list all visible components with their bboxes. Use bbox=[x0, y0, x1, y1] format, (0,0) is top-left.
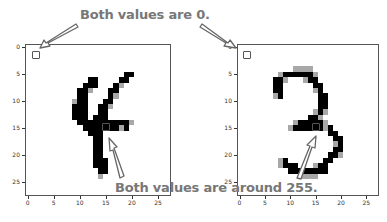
marker-pixel-15-15 bbox=[312, 123, 320, 131]
plot-digit-three bbox=[237, 44, 379, 196]
x-tick-label: 15 bbox=[99, 200, 113, 206]
x-tick-label: 20 bbox=[125, 200, 139, 206]
x-tick-label: 10 bbox=[283, 200, 297, 206]
y-tick-mark bbox=[234, 101, 237, 102]
y-tick-mark bbox=[22, 155, 25, 156]
x-tick-mark bbox=[316, 196, 317, 199]
y-tick-label: 5 bbox=[220, 71, 232, 77]
y-tick-label: 15 bbox=[220, 125, 232, 131]
y-tick-mark bbox=[234, 128, 237, 129]
y-tick-label: 10 bbox=[220, 98, 232, 104]
y-tick-mark bbox=[22, 182, 25, 183]
y-tick-label: 10 bbox=[8, 98, 20, 104]
y-tick-mark bbox=[22, 128, 25, 129]
x-tick-label: 25 bbox=[151, 200, 165, 206]
y-tick-mark bbox=[22, 101, 25, 102]
x-tick-mark bbox=[240, 196, 241, 199]
x-tick-mark bbox=[132, 196, 133, 199]
x-tick-label: 0 bbox=[233, 200, 247, 206]
y-tick-mark bbox=[234, 47, 237, 48]
x-tick-label: 0 bbox=[21, 200, 35, 206]
pixel-grid-four bbox=[26, 45, 170, 195]
y-tick-mark bbox=[22, 74, 25, 75]
plot-digit-four bbox=[25, 44, 171, 196]
y-tick-label: 0 bbox=[220, 44, 232, 50]
x-tick-label: 10 bbox=[73, 200, 87, 206]
x-tick-label: 20 bbox=[334, 200, 348, 206]
annotation-255-values: Both values are around 255. bbox=[115, 180, 318, 195]
x-tick-mark bbox=[341, 196, 342, 199]
x-tick-label: 5 bbox=[258, 200, 272, 206]
marker-pixel-15-15 bbox=[102, 123, 110, 131]
x-tick-label: 25 bbox=[359, 200, 373, 206]
x-tick-mark bbox=[366, 196, 367, 199]
x-tick-label: 5 bbox=[47, 200, 61, 206]
y-tick-mark bbox=[22, 47, 25, 48]
x-tick-mark bbox=[80, 196, 81, 199]
y-tick-label: 15 bbox=[8, 125, 20, 131]
y-tick-label: 0 bbox=[8, 44, 20, 50]
marker-pixel-1-1 bbox=[243, 51, 251, 59]
x-tick-mark bbox=[54, 196, 55, 199]
annotation-zero-values: Both values are 0. bbox=[80, 7, 210, 22]
x-tick-mark bbox=[106, 196, 107, 199]
y-tick-label: 20 bbox=[220, 152, 232, 158]
pixel bbox=[373, 190, 378, 195]
x-tick-mark bbox=[290, 196, 291, 199]
x-tick-mark bbox=[28, 196, 29, 199]
y-tick-label: 5 bbox=[8, 71, 20, 77]
y-tick-mark bbox=[234, 74, 237, 75]
pixel-grid-three bbox=[238, 45, 378, 195]
marker-pixel-1-1 bbox=[32, 51, 40, 59]
y-tick-mark bbox=[234, 155, 237, 156]
y-tick-label: 20 bbox=[8, 152, 20, 158]
x-tick-label: 15 bbox=[309, 200, 323, 206]
x-tick-mark bbox=[265, 196, 266, 199]
x-tick-mark bbox=[158, 196, 159, 199]
y-tick-label: 25 bbox=[8, 179, 20, 185]
